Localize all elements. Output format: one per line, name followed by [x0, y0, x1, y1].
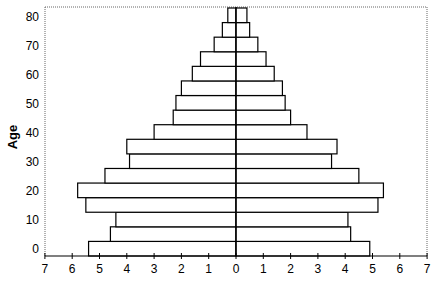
x-tick-label: 4 — [123, 262, 130, 276]
x-tick-label: 7 — [42, 262, 49, 276]
y-tick-label: 70 — [26, 39, 40, 53]
bar-left-30-34 — [130, 154, 236, 169]
bar-right-25-29 — [236, 168, 359, 183]
bar-right-40-44 — [236, 125, 307, 140]
y-tick-label: 40 — [26, 126, 40, 140]
bar-left-35-39 — [127, 139, 236, 154]
x-tick-label: 6 — [69, 262, 76, 276]
bar-right-80+ — [236, 8, 247, 23]
x-tick-label: 5 — [369, 262, 376, 276]
y-tick-label: 10 — [26, 213, 40, 227]
bar-right-10-14 — [236, 212, 348, 227]
y-tick-label: 60 — [26, 68, 40, 82]
y-axis-title: Age — [5, 125, 20, 150]
bar-left-75-79 — [222, 23, 236, 38]
x-tick-label: 1 — [205, 262, 212, 276]
bar-right-45-49 — [236, 110, 291, 125]
bar-left-20-24 — [78, 183, 236, 198]
bar-left-55-59 — [181, 81, 236, 96]
x-tick-label: 0 — [233, 262, 240, 276]
bar-left-60-64 — [192, 66, 236, 81]
x-tick-label: 7 — [424, 262, 431, 276]
bar-left-5-9 — [110, 227, 236, 242]
bar-left-70-74 — [214, 37, 236, 52]
x-tick-label: 4 — [342, 262, 349, 276]
bar-right-60-64 — [236, 66, 274, 81]
bar-right-75-79 — [236, 23, 250, 38]
population-pyramid-chart: 765432101234567 01020304050607080 Age — [0, 0, 439, 286]
y-tick-label: 80 — [26, 10, 40, 24]
bar-left-40-44 — [154, 125, 236, 140]
bar-right-0-4 — [236, 241, 370, 256]
x-tick-label: 2 — [178, 262, 185, 276]
x-axis: 765432101234567 — [42, 253, 431, 276]
bar-right-5-9 — [236, 227, 351, 242]
x-tick-label: 5 — [96, 262, 103, 276]
bar-left-65-69 — [201, 52, 236, 67]
bar-right-35-39 — [236, 139, 337, 154]
bar-right-55-59 — [236, 81, 282, 96]
bar-right-70-74 — [236, 37, 258, 52]
bar-right-50-54 — [236, 96, 285, 111]
bar-left-0-4 — [89, 241, 236, 256]
bar-right-30-34 — [236, 154, 332, 169]
bar-left-45-49 — [173, 110, 236, 125]
bar-left-25-29 — [105, 168, 236, 183]
x-tick-label: 3 — [315, 262, 322, 276]
bar-right-20-24 — [236, 183, 383, 198]
y-tick-label: 20 — [26, 184, 40, 198]
bar-left-10-14 — [116, 212, 236, 227]
bars-group — [78, 8, 384, 256]
bar-right-65-69 — [236, 52, 266, 67]
bar-left-15-19 — [86, 198, 236, 213]
y-tick-label: 30 — [26, 155, 40, 169]
y-tick-label: 50 — [26, 97, 40, 111]
y-axis: 01020304050607080 — [26, 10, 40, 256]
x-tick-label: 3 — [151, 262, 158, 276]
x-tick-label: 6 — [396, 262, 403, 276]
x-tick-label: 1 — [260, 262, 267, 276]
y-tick-label: 0 — [32, 242, 39, 256]
x-tick-label: 2 — [287, 262, 294, 276]
bar-left-50-54 — [176, 96, 236, 111]
bar-right-15-19 — [236, 198, 378, 213]
bar-left-80+ — [228, 8, 236, 23]
